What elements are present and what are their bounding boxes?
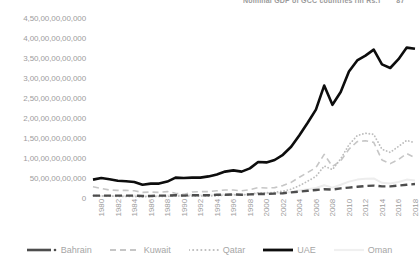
x-axis-tick-label: 1998	[246, 199, 255, 216]
gdp-line-chart: Nominal GDP of GCC countries (in Rs.) 87…	[0, 0, 419, 265]
plot-area	[93, 18, 415, 198]
x-axis-tick-label: 2016	[394, 199, 403, 216]
x-axis-tick-label: 2002	[279, 199, 288, 216]
chart-legend: BahrainKuwaitQatarUAEOman	[0, 240, 419, 260]
legend-marker-kuwait-icon	[110, 245, 140, 255]
x-axis-tick-label: 1992	[196, 199, 205, 216]
x-axis-tick-label: 2012	[361, 199, 370, 216]
y-axis-tick-label: 0	[82, 194, 86, 203]
legend-item-qatar[interactable]: Qatar	[189, 245, 246, 255]
series-canvas	[93, 18, 415, 198]
page-number: 87	[396, 0, 404, 3]
legend-marker-oman-icon	[334, 245, 364, 255]
y-axis-tick-label: 1,00,00,00,00,000	[23, 154, 86, 163]
y-axis-tick-label: 50,00,00,00,000	[30, 174, 86, 183]
x-axis-tick-label: 2018	[411, 199, 419, 216]
legend-marker-uae-icon	[263, 245, 293, 255]
x-axis-tick-label: 1982	[114, 199, 123, 216]
legend-label: UAE	[297, 245, 316, 255]
series-line-uae	[93, 48, 415, 185]
x-axis-tick-label: 1984	[130, 199, 139, 216]
legend-label: Qatar	[223, 245, 246, 255]
legend-marker-qatar-icon	[189, 245, 219, 255]
y-axis-tick-label: 3,50,00,00,00,000	[23, 54, 86, 63]
legend-label: Oman	[368, 245, 393, 255]
legend-label: Kuwait	[144, 245, 171, 255]
y-axis-tick-label: 3,00,00,00,00,000	[23, 74, 86, 83]
legend-marker-bahrain-icon	[27, 245, 57, 255]
x-axis-tick-label: 1988	[163, 199, 172, 216]
y-axis-labels: 050,00,00,00,0001,00,00,00,00,0001,50,00…	[0, 0, 90, 205]
x-axis-tick-label: 1996	[229, 199, 238, 216]
x-axis-tick-label: 1990	[180, 199, 189, 216]
legend-item-kuwait[interactable]: Kuwait	[110, 245, 171, 255]
x-axis-labels: 1980198219841986198819901992199419961998…	[93, 199, 415, 237]
y-axis-tick-label: 1,50,00,00,00,000	[23, 134, 86, 143]
y-axis-tick-label: 4,00,00,00,00,000	[23, 34, 86, 43]
legend-item-uae[interactable]: UAE	[263, 245, 316, 255]
x-axis-tick-label: 1980	[97, 199, 106, 216]
x-axis-tick-label: 2004	[295, 199, 304, 216]
x-axis-tick-label: 2010	[345, 199, 354, 216]
x-axis-tick-label: 2014	[378, 199, 387, 216]
x-axis-tick-label: 1994	[213, 199, 222, 216]
legend-item-oman[interactable]: Oman	[334, 245, 393, 255]
x-axis-tick-label: 2008	[328, 199, 337, 216]
x-axis-tick-label: 2006	[312, 199, 321, 216]
page-header: Nominal GDP of GCC countries (in Rs.) 87	[243, 0, 405, 3]
x-axis-tick-label: 1986	[147, 199, 156, 216]
legend-label: Bahrain	[61, 245, 92, 255]
legend-item-bahrain[interactable]: Bahrain	[27, 245, 92, 255]
y-axis-tick-label: 2,50,00,00,00,000	[23, 94, 86, 103]
x-axis-tick-label: 2000	[262, 199, 271, 216]
page-header-text: Nominal GDP of GCC countries (in Rs.)	[243, 0, 380, 3]
y-axis-tick-label: 2,00,00,00,00,000	[23, 114, 86, 123]
series-line-kuwait	[93, 141, 415, 195]
y-axis-tick-label: 4,50,00,00,00,000	[23, 14, 86, 23]
